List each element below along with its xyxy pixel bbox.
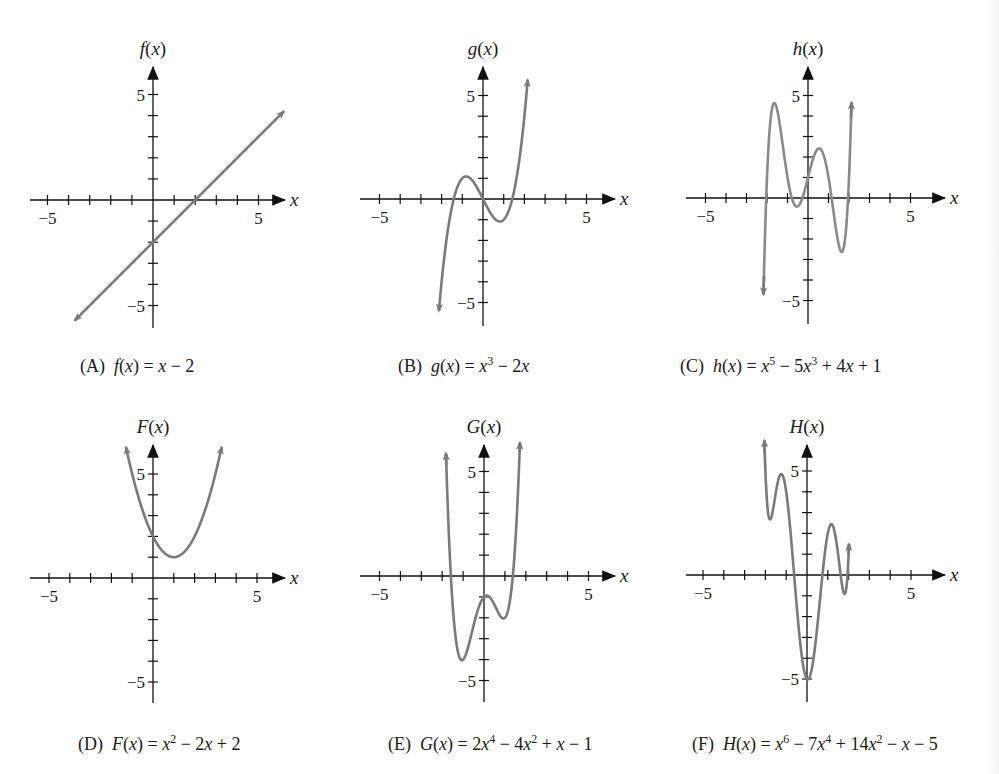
y-axis-label: g(x) <box>468 38 499 60</box>
curve-arrow-icon <box>75 319 76 320</box>
function-curve <box>446 442 520 660</box>
function-curve <box>75 111 284 320</box>
x-tick-label: 5 <box>582 208 591 227</box>
graph-caption-a: (A) f(x) = x − 2 <box>80 356 194 377</box>
graph-panel-f: −55−55xH(x) <box>686 416 959 702</box>
function-graphs-figure: −55−55xf(x)−55−55xg(x)−55−55xh(x)−55−55x… <box>0 0 999 774</box>
y-axis-label: F(x) <box>136 416 170 438</box>
x-tick-label: −5 <box>696 207 714 226</box>
graph-caption-d: (D) F(x) = x2 − 2x + 2 <box>78 734 240 755</box>
x-tick-label: 5 <box>906 207 915 226</box>
graph-caption-e: (E) G(x) = 2x4 − 4x2 + x − 1 <box>388 734 593 755</box>
y-tick-label: 5 <box>792 87 801 106</box>
x-axis-label: x <box>289 567 299 588</box>
graph-caption-c: (C) h(x) = x5 − 5x3 + 4x + 1 <box>680 356 882 377</box>
y-tick-label: −5 <box>782 292 800 311</box>
x-tick-label: 5 <box>254 209 263 228</box>
y-tick-label: −5 <box>457 294 475 313</box>
y-axis-label: h(x) <box>793 38 824 60</box>
x-tick-label: −5 <box>370 585 388 604</box>
graph-caption-b: (B) g(x) = x3 − 2x <box>398 356 529 377</box>
y-tick-label: 5 <box>137 86 146 105</box>
x-axis-label: x <box>619 188 629 209</box>
y-axis-label: H(x) <box>789 416 825 438</box>
function-curve <box>126 447 222 557</box>
x-axis-label: x <box>949 187 959 208</box>
y-axis-label: f(x) <box>140 38 166 60</box>
graph-panel-e: −55−55xG(x) <box>360 416 629 702</box>
graph-panel-c: −55−55xh(x) <box>686 38 959 324</box>
graph-panel-b: −55−55xg(x) <box>360 38 629 326</box>
x-tick-label: 5 <box>907 584 916 603</box>
x-axis-label: x <box>289 189 299 210</box>
y-axis-label: G(x) <box>467 416 502 438</box>
y-tick-label: 5 <box>467 87 476 106</box>
graph-caption-f: (F) H(x) = x6 − 7x4 + 14x2 − x − 5 <box>692 734 938 755</box>
y-tick-label: −5 <box>127 297 145 316</box>
y-tick-label: −5 <box>781 670 799 689</box>
x-tick-label: 5 <box>253 587 262 606</box>
x-tick-label: −5 <box>40 587 58 606</box>
y-tick-label: 5 <box>137 465 146 484</box>
page-edge-shadow <box>985 0 999 774</box>
x-tick-label: 5 <box>584 585 593 604</box>
x-tick-label: −5 <box>694 584 712 603</box>
x-tick-label: −5 <box>38 209 56 228</box>
x-tick-label: −5 <box>370 208 388 227</box>
x-axis-label: x <box>949 564 959 585</box>
y-tick-label: −5 <box>127 673 145 692</box>
curve-arrow-icon <box>283 111 284 112</box>
graph-panel-d: −55−55xF(x) <box>30 416 299 703</box>
y-tick-label: −5 <box>458 672 476 691</box>
y-tick-label: 5 <box>791 462 800 481</box>
graph-panel-a: −55−55xf(x) <box>30 38 299 328</box>
x-axis-label: x <box>619 565 629 586</box>
y-tick-label: 5 <box>468 463 477 482</box>
